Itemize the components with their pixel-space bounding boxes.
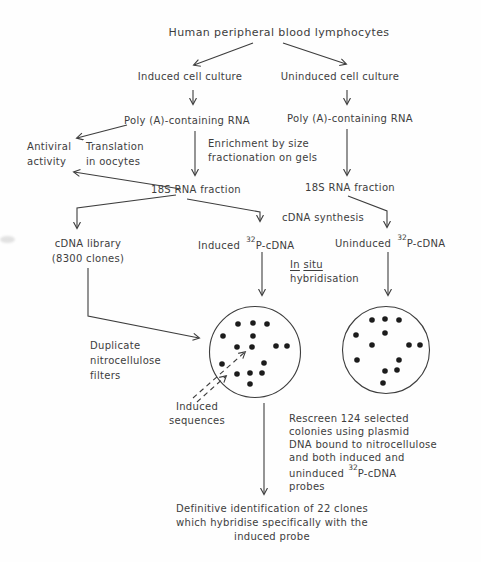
conclusion-label: Definitive identification of 22 clones w… <box>176 502 368 544</box>
colony-dot <box>380 380 386 386</box>
colony-dot <box>234 344 240 350</box>
antiviral-label: Antiviral activity <box>27 139 71 169</box>
cdna-synthesis-label: cDNA synthesis <box>282 211 364 225</box>
colony-dot <box>247 370 253 376</box>
uninduced-culture-label: Uninduced cell culture <box>281 70 400 84</box>
cdna-library-label: cDNA library (8300 clones) <box>52 236 124 266</box>
enrichment-label: Enrichment by size fractionation on gels <box>208 137 317 165</box>
duplicate-filters-label: Duplicate nitrocellulose filters <box>90 338 161 383</box>
colony-dot <box>382 368 388 374</box>
induced-probe-label: Induced32P-cDNA <box>198 236 294 253</box>
uninduced-probe-label: Uninduced32P-cDNA <box>335 234 445 251</box>
colony-dot <box>235 321 241 327</box>
colony-dot <box>396 357 402 363</box>
colony-dot <box>353 332 359 338</box>
arrow-polya-to-antiviral <box>77 125 127 138</box>
colony-dot <box>394 367 400 373</box>
colony-dot <box>261 360 267 366</box>
filter-left-circle <box>210 307 301 398</box>
colony-dot <box>406 342 412 348</box>
flowchart-figure: Human peripheral blood lymphocytes Induc… <box>0 0 481 562</box>
colony-dot <box>273 343 279 349</box>
colony-dot <box>382 330 388 336</box>
arrow-title-to-uninduced <box>283 43 346 64</box>
colony-dot <box>382 316 388 322</box>
isotope-superscript: 32 <box>246 235 256 244</box>
colony-dot <box>249 344 255 350</box>
colony-dot <box>250 333 256 339</box>
colony-dot <box>396 317 402 323</box>
polya-left-label: Poly (A)-containing RNA <box>124 114 250 128</box>
colony-dot <box>219 361 225 367</box>
colony-dot <box>250 320 256 326</box>
colony-dot <box>234 371 240 377</box>
colony-dot <box>369 342 375 348</box>
rna-18s-right-label: 18S RNA fraction <box>305 181 395 195</box>
polya-right-label: Poly (A)-containing RNA <box>287 112 413 126</box>
in-situ-label: In situ hybridisation <box>290 258 359 286</box>
dashed-arrow-induced-sequence-2 <box>197 376 226 402</box>
arrow-18s-to-induced-cdna <box>187 199 260 221</box>
colony-dot <box>259 370 265 376</box>
colony-dot <box>220 333 226 339</box>
colony-dot <box>247 381 253 387</box>
filter-left-dots <box>219 320 290 387</box>
rescreen-label: Rescreen 124 selected colonies using pla… <box>289 412 437 493</box>
isotope-superscript: 32 <box>397 233 407 242</box>
induced-culture-label: Induced cell culture <box>138 70 242 84</box>
colony-dot <box>369 317 375 323</box>
colony-dot <box>284 343 290 349</box>
colony-dot <box>264 321 270 327</box>
title-label: Human peripheral blood lymphocytes <box>169 26 390 40</box>
colony-dot <box>354 357 360 363</box>
arrow-title-to-induced <box>194 43 253 65</box>
arrow-library-to-filter <box>88 268 199 338</box>
arrow-18s-to-library <box>77 195 176 228</box>
translation-label: Translation in oocytes <box>86 139 144 169</box>
induced-sequences-label: Induced sequences <box>169 400 225 428</box>
rna-18s-left-label: 18S RNA fraction <box>151 183 241 197</box>
isotope-superscript: 32 <box>348 463 358 472</box>
filter-right-dots <box>353 316 423 386</box>
colony-dot <box>417 342 423 348</box>
